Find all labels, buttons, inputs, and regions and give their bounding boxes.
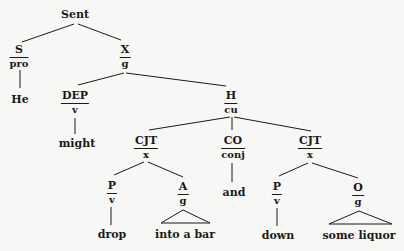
node-h-category: cu [224, 104, 237, 116]
node-co-function: CO [221, 135, 245, 149]
node-s-function: S [10, 44, 29, 58]
node-cjt1: CJT x [134, 135, 158, 161]
node-o: O g [352, 182, 364, 208]
edge-cjt1-p [114, 162, 144, 175]
node-cjt2-category: x [298, 149, 322, 161]
edge-sent-x [78, 24, 121, 40]
phrase-some-liquor: some liquor [322, 230, 395, 242]
word-and: and [223, 187, 246, 199]
node-cjt1-category: x [134, 149, 158, 161]
node-p1-function: P [107, 180, 117, 194]
node-root: Sent [61, 9, 89, 21]
triangle-o [329, 211, 392, 224]
word-down: down [262, 230, 295, 242]
node-co: CO conj [221, 135, 245, 161]
edge-cjt2-p [279, 163, 308, 176]
node-o-category: g [352, 196, 364, 208]
node-o-function: O [352, 182, 364, 196]
node-cjt1-function: CJT [134, 135, 158, 149]
node-s-category: pro [10, 58, 29, 70]
node-a-function: A [178, 181, 189, 195]
node-p2: P v [272, 181, 282, 207]
node-dep-function: DEP [61, 90, 89, 104]
node-p1: P v [107, 180, 117, 206]
edge-x-h [126, 73, 226, 86]
phrase-into-a-bar: into a bar [155, 229, 215, 241]
edge-h-cjt2 [234, 117, 311, 131]
node-cjt2-function: CJT [298, 135, 322, 149]
node-p2-function: P [272, 181, 282, 195]
node-cjt2: CJT x [298, 135, 322, 161]
node-s: S pro [10, 44, 29, 70]
word-he: He [11, 94, 28, 106]
node-x-function: X [120, 44, 131, 58]
node-co-category: conj [221, 149, 245, 161]
edge-cjt2-o [312, 163, 358, 178]
edge-cjt1-a [148, 162, 183, 177]
node-p2-category: v [272, 195, 282, 207]
word-drop: drop [98, 229, 127, 241]
node-a-category: g [178, 195, 189, 207]
triangle-a [161, 210, 210, 223]
node-a: A g [178, 181, 189, 207]
node-dep: DEP v [61, 90, 89, 116]
edge-sent-s [22, 24, 74, 42]
edge-h-cjt1 [149, 117, 230, 130]
tree-edges [0, 0, 404, 251]
node-x-category: g [120, 58, 131, 70]
edge-x-dep [78, 73, 124, 85]
word-might: might [59, 138, 96, 150]
node-p1-category: v [107, 194, 117, 206]
node-h: H cu [224, 90, 237, 116]
node-h-function: H [224, 90, 237, 104]
node-dep-category: v [61, 104, 89, 116]
node-x: X g [120, 44, 131, 70]
